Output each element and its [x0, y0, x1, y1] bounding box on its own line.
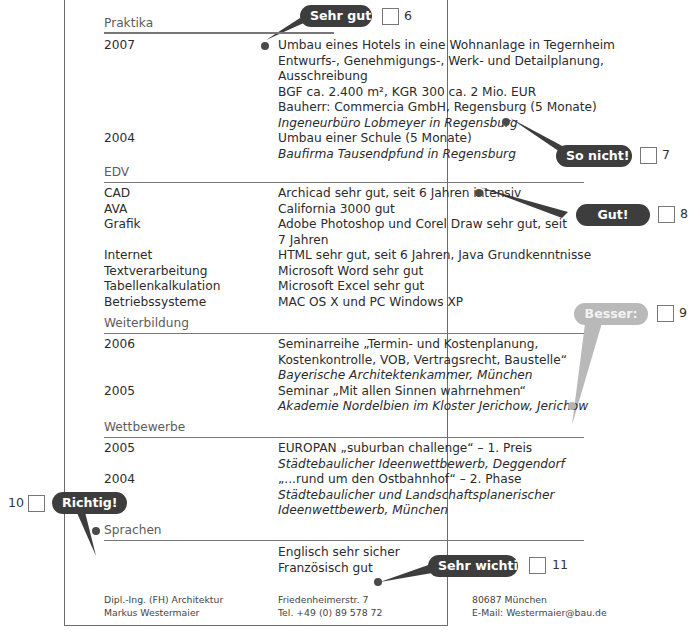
edv-label: CAD: [104, 186, 130, 202]
praktika-line: Umbau eines Hotels in eine Wohnanlage in…: [278, 38, 615, 54]
weiterbildung-line: Kostenkontrolle, VOB, Vertragsrecht, Bau…: [278, 353, 567, 369]
praktika-year: 2007: [104, 38, 135, 54]
edv-value: Adobe Photoshop und Corel Draw sehr gut,…: [278, 217, 567, 233]
annotation-checkbox-10[interactable]: [28, 495, 45, 512]
edv-label: AVA: [104, 202, 127, 218]
edv-value: Microsoft Excel sehr gut: [278, 279, 424, 295]
annotation-number: 6: [404, 8, 412, 23]
weiterbildung-institution: Akademie Nordelbien im Kloster Jerichow,…: [278, 399, 588, 415]
annotation-checkbox-6[interactable]: [382, 8, 399, 25]
annotation-number: 11: [552, 557, 568, 572]
edv-value: Microsoft Word sehr gut: [278, 264, 423, 280]
edv-label: Grafik: [104, 217, 141, 233]
annotation-number: 7: [662, 147, 670, 162]
annotation-bubble-richtig: Richtig!: [52, 492, 127, 514]
praktika-year: 2004: [104, 131, 135, 147]
annotation-bubble-sehr-wichtig: Sehr wichtig!: [428, 555, 518, 577]
section-rule-weiterbildung: [104, 333, 584, 334]
footer-col3-line: 80687 München: [472, 593, 547, 606]
annotation-bubble-sehr-gut: Sehr gut!: [300, 5, 372, 27]
section-title-edv: EDV: [104, 165, 129, 179]
praktika-employer: Baufirma Tausendpfund in Regensburg: [278, 147, 516, 163]
section-title-wettbewerbe: Wettbewerbe: [104, 420, 185, 434]
wettbewerbe-italic: Städtebaulicher Ideenwettbewerb, Deggend…: [278, 457, 565, 473]
edv-value: MAC OS X und PC Windows XP: [278, 295, 463, 311]
weiterbildung-line: Seminarreihe „Termin- und Kostenplanung,: [278, 337, 538, 353]
section-rule-wettbewerbe: [104, 437, 584, 438]
footer-col3-line: E-Mail: Westermaier@bau.de: [472, 606, 607, 619]
praktika-line: Ausschreibung: [278, 69, 368, 85]
wettbewerbe-italic: Städtebaulicher und Landschaftsplanerisc…: [278, 488, 554, 504]
annotation-bubble-besser: Besser:: [574, 303, 648, 325]
sprachen-line: Englisch sehr sicher: [278, 545, 400, 561]
wettbewerbe-year: 2004: [104, 472, 135, 488]
wettbewerbe-line: „...rund um den Ostbahnhof“ – 2. Phase: [278, 472, 522, 488]
footer-col2-line: Tel. +49 (0) 89 578 72: [278, 606, 382, 619]
edv-label: Internet: [104, 248, 152, 264]
wettbewerbe-year: 2005: [104, 441, 135, 457]
weiterbildung-line: Seminar „Mit allen Sinnen wahrnehmen“: [278, 384, 526, 400]
weiterbildung-year: 2006: [104, 337, 135, 353]
section-title-praktika: Praktika: [104, 16, 153, 30]
section-title-weiterbildung: Weiterbildung: [104, 316, 189, 330]
annotation-number: 8: [680, 206, 688, 221]
footer-col1-line: Markus Westermaier: [104, 606, 199, 619]
annotation-bubble-so-nicht: So nicht!: [556, 145, 632, 167]
annotation-bubble-gut: Gut!: [576, 204, 650, 226]
annotation-number: 10: [8, 495, 24, 510]
weiterbildung-institution: Bayerische Architektenkammer, München: [278, 368, 533, 384]
edv-value: Archicad sehr gut, seit 6 Jahren intensi…: [278, 186, 521, 202]
praktika-line: Bauherr: Commercia GmbH, Regensburg (5 M…: [278, 100, 597, 116]
marker-dot: [374, 578, 382, 586]
edv-label: Textverarbeitung: [104, 264, 207, 280]
edv-label: Tabellenkalkulation: [104, 279, 220, 295]
section-rule-edv: [104, 182, 584, 183]
edv-value: HTML sehr gut, seit 6 Jahren, Java Grund…: [278, 248, 591, 264]
marker-dot: [502, 118, 510, 126]
praktika-line: Umbau einer Schule (5 Monate): [278, 131, 472, 147]
edv-value: California 3000 gut: [278, 202, 395, 218]
weiterbildung-year: 2005: [104, 384, 135, 400]
praktika-underline-5: [104, 32, 334, 33]
annotation-checkbox-8[interactable]: [658, 206, 675, 223]
wettbewerbe-italic: Ideenwettbewerb, München: [278, 503, 448, 519]
praktika-employer: Ingeneurbüro Lobmeyer in Regensburg: [278, 116, 518, 132]
edv-label: Betriebssysteme: [104, 295, 206, 311]
marker-dot: [475, 189, 483, 197]
praktika-line: Entwurfs-, Genehmigungs-, Werk- und Deta…: [278, 54, 604, 70]
praktika-rule-c: [104, 33, 334, 34]
footer-col2-line: Friedenheimerstr. 7: [278, 593, 368, 606]
edv-value-cont: 7 Jahren: [278, 233, 328, 249]
annotation-checkbox-9[interactable]: [657, 305, 674, 322]
section-rule-sprachen: [104, 540, 584, 541]
marker-dot: [92, 527, 100, 535]
marker-dot: [261, 42, 269, 50]
annotation-checkbox-7[interactable]: [640, 147, 657, 164]
annotation-number: 9: [679, 305, 687, 320]
wettbewerbe-line: EUROPAN „suburban challenge“ – 1. Preis: [278, 441, 532, 457]
sprachen-line: Französisch gut: [278, 561, 373, 577]
praktika-line: BGF ca. 2.400 m², KGR 300 ca. 2 Mio. EUR: [278, 85, 536, 101]
marker-dot: [568, 402, 576, 410]
section-title-sprachen: Sprachen: [104, 523, 162, 537]
footer-col1-line: Dipl.-Ing. (FH) Architektur: [104, 593, 223, 606]
annotation-checkbox-11[interactable]: [529, 557, 546, 574]
